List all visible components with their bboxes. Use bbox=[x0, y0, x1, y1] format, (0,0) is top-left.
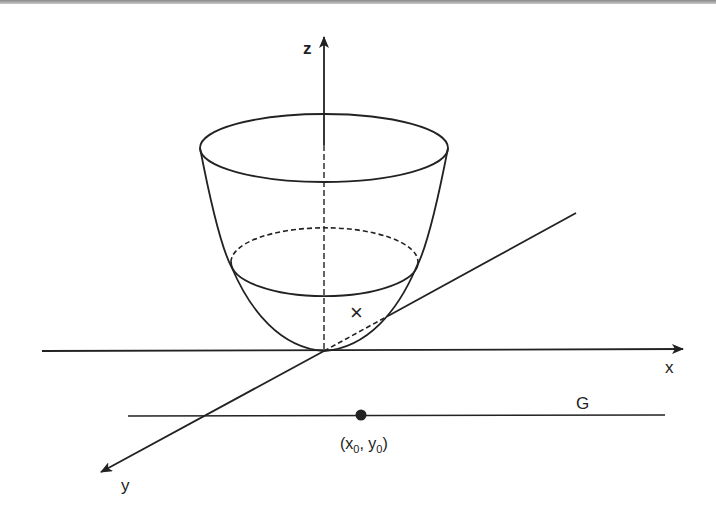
diagram-canvas: × G (x0, y0) z x y bbox=[0, 0, 716, 525]
z-axis-label: z bbox=[303, 39, 312, 58]
y-axis bbox=[101, 213, 576, 472]
cross-mark: × bbox=[350, 300, 363, 325]
line-G bbox=[128, 415, 665, 416]
point-x0-y0-label: (x0, y0) bbox=[340, 435, 388, 455]
line-G-label: G bbox=[576, 394, 589, 413]
point-x0-y0 bbox=[356, 410, 367, 421]
paraboloid-diagram: × G (x0, y0) z x y bbox=[0, 0, 716, 525]
x-axis-label: x bbox=[665, 358, 674, 377]
y-axis-label: y bbox=[121, 476, 130, 495]
x-axis bbox=[42, 349, 683, 351]
